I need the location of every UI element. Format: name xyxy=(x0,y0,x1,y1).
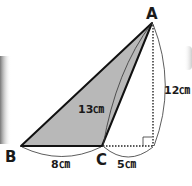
label-ac-length: 13㎝ xyxy=(78,103,104,116)
label-c-foot-length: 5㎝ xyxy=(117,158,136,171)
shaded-triangle-abc xyxy=(21,23,152,146)
label-point-a: A xyxy=(146,5,158,23)
label-point-c: C xyxy=(96,151,107,169)
arc-c-foot xyxy=(104,147,153,157)
right-edge-shadow xyxy=(184,46,192,70)
label-bc-length: 8㎝ xyxy=(51,158,70,171)
triangle-diagram: A B C 13㎝ 12㎝ 8㎝ 5㎝ xyxy=(0,0,192,186)
label-height: 12㎝ xyxy=(164,84,190,97)
right-angle-mark xyxy=(143,137,152,146)
arc-bc xyxy=(22,147,101,157)
left-edge-shadow xyxy=(0,56,11,144)
label-point-b: B xyxy=(5,148,16,166)
